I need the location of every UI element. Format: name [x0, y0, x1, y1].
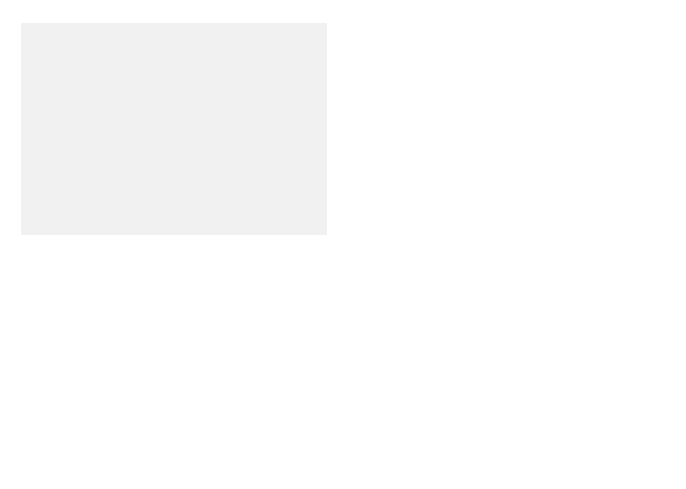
- calcium-signaling-diagram: [0, 0, 686, 489]
- figure-background-panel: [21, 23, 327, 235]
